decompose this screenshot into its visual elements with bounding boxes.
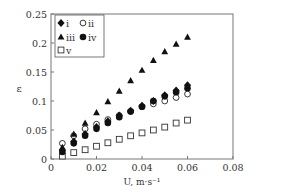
chart-canvas: 00.050.10.150.20.25 00.020.040.060.08 ε … [0,0,281,195]
data-point-series-iii [93,109,100,115]
data-point-series-iii [82,119,89,125]
legend: iiiiiiivv [55,15,104,57]
scatter-chart: 00.050.10.150.20.25 00.020.040.060.08 ε … [0,0,281,195]
data-point-series-i [127,107,134,115]
data-point-series-v [94,143,100,149]
y-tick-label: 0 [41,154,47,165]
data-point-series-v [116,136,122,142]
data-point-series-v [150,127,156,133]
data-point-series-v [105,140,111,146]
data-point-series-iii [139,67,146,73]
x-tick-label: 0.04 [131,162,152,173]
data-point-series-ii [185,91,191,97]
data-point-series-iii [104,98,111,104]
data-point-series-v [173,120,179,126]
y-axis: 00.050.10.150.20.25 [26,9,54,165]
data-point-series-v [128,133,134,139]
data-point-series-v [82,147,88,153]
x-tick-label: 0.02 [86,162,107,173]
legend-label-v: v [65,45,72,56]
data-point-series-iii [184,34,191,40]
y-tick-label: 0.25 [26,9,47,20]
legend-marker-ii-icon [80,20,86,26]
data-point-series-iii [127,77,134,83]
y-tick-label: 0.2 [32,38,47,49]
data-point-series-iii [161,48,168,54]
legend-label-i: i [66,18,69,29]
data-point-series-v [162,124,168,130]
legend-label-ii: ii [88,18,94,29]
legend-marker-iv-icon [80,34,87,41]
x-tick-label: 0.06 [177,162,198,173]
x-tick-label: 0.08 [222,162,243,173]
y-tick-label: 0.15 [26,67,47,78]
y-tick-label: 0.05 [26,125,47,136]
data-point-series-iii [173,41,180,47]
data-point-series-v [139,130,145,136]
data-point-series-v [71,150,77,156]
y-tick-label: 0.1 [32,96,47,107]
y-axis-label: ε [16,83,21,94]
data-point-series-iii [150,57,157,63]
x-tick-label: 0 [48,162,54,173]
legend-label-iii: iii [66,32,75,43]
x-axis-label: U, m·s⁻¹ [124,177,161,187]
data-point-series-iii [116,88,123,94]
legend-label-iv: iv [88,32,97,43]
data-point-series-v [185,117,191,123]
legend-marker-v-icon [58,47,64,53]
